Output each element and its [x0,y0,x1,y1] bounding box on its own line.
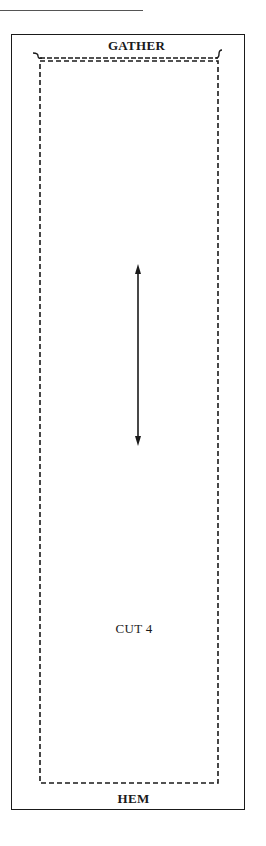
double-headed-arrow-icon [135,264,141,446]
seam-line [40,61,218,783]
hem-label: HEM [0,791,266,807]
pattern-overlay [0,0,266,846]
gather-label: GATHER [0,38,266,54]
cut-instruction: CUT 4 [0,621,266,637]
